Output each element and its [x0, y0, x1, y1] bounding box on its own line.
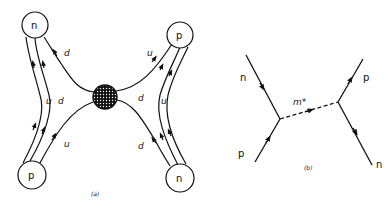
quark-line-right-inner: [167, 47, 188, 164]
nucleon-label-top-right: p: [176, 30, 182, 41]
arrow-icon: [33, 125, 35, 130]
quark-label: u: [161, 96, 167, 106]
label-outgoing-n-left: n: [240, 72, 246, 83]
arrow-icon: [33, 63, 34, 68]
label-outgoing-p-right: p: [363, 72, 369, 83]
label-exchange-meson: m*: [293, 97, 307, 107]
diagram-b-labels: p n m* p n: [238, 72, 382, 170]
quark-line-right-d-from-blob: [117, 100, 170, 166]
caption-a: (a): [91, 190, 99, 197]
nucleon-label-bottom-left: p: [28, 170, 34, 181]
arrow-icon: [160, 66, 162, 70]
nucleon-label-bottom-right: n: [176, 173, 182, 184]
caption-b: (b): [304, 164, 313, 171]
exchange-blob-icon: [93, 85, 117, 109]
quark-label: u: [147, 48, 153, 58]
quark-line-left-ud-to-blob: [40, 102, 93, 163]
label-incoming-p: p: [238, 148, 244, 159]
quark-label: u: [46, 96, 52, 106]
quark-label: u: [64, 139, 70, 149]
outgoing-n-line-right: [338, 102, 372, 165]
quark-label: d: [64, 48, 70, 58]
quark-line-left-d-from-blob: [44, 37, 94, 92]
arrow-icon: [169, 72, 171, 76]
quark-label: d: [138, 93, 144, 103]
label-outgoing-n-right: n: [376, 159, 382, 170]
diagram-b: [246, 55, 372, 165]
diagram-a: [18, 12, 194, 192]
nucleon-label-top-left: n: [31, 20, 37, 31]
feynman-diagrams: n p p n d u d u u d u d (a) p n m* p n (…: [0, 0, 392, 208]
arrow-icon: [161, 135, 163, 140]
quark-label: d: [58, 96, 64, 106]
arrow-icon: [43, 63, 44, 68]
quark-label: d: [138, 141, 144, 151]
arrow-icon: [152, 58, 155, 62]
arrow-icon: [266, 138, 269, 143]
